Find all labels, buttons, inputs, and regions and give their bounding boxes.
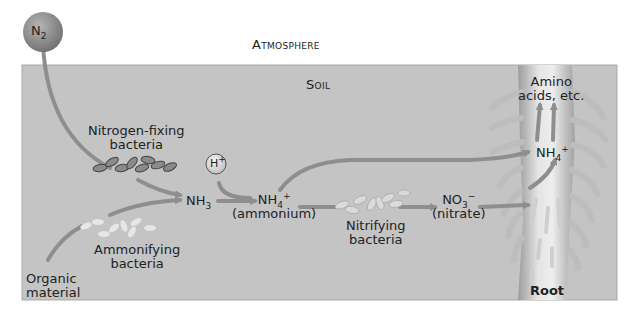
organic-line1: Organic (26, 272, 80, 286)
ammonifying-line1: Ammonifying (94, 243, 180, 257)
ammonifying-bacteria-label: Ammonifying bacteria (94, 243, 180, 271)
amino-arrow-2 (553, 105, 554, 140)
nitrifying-bacteria-label: Nitrifying bacteria (346, 219, 406, 247)
nh4-base: NH (258, 192, 278, 207)
root-nh4-base: NH (536, 145, 556, 160)
nh4-sup: + (283, 191, 291, 201)
ammonium-label: NH4+ (ammonium) (232, 193, 316, 221)
h-ion-label: H+ (210, 157, 226, 171)
n2-base: N (31, 23, 41, 38)
h-sup: + (218, 154, 226, 164)
n2-sub: 2 (41, 31, 47, 41)
ammonifying-line2: bacteria (94, 257, 180, 271)
nitrifying-line2: bacteria (346, 233, 406, 247)
nitrate-label: NO3− (nitrate) (432, 193, 486, 221)
nitrogen-fixing-line1: Nitrogen-fixing (88, 124, 185, 138)
amino-line1: Amino (518, 75, 584, 89)
no3-base: NO (442, 192, 462, 207)
organic-material-label: Organic material (26, 272, 80, 300)
nh3-label: NH3 (186, 194, 211, 208)
ammonium-caption: (ammonium) (232, 207, 316, 221)
organic-line2: material (26, 286, 80, 300)
nitrate-caption: (nitrate) (432, 207, 486, 221)
no3-sup: − (468, 191, 476, 201)
root-nh4-sup: + (561, 144, 569, 154)
soil-label: Soil (306, 78, 330, 92)
root-nh4-sub: 4 (556, 153, 562, 163)
nitrogen-cycle-diagram: N2 Atmosphere Soil Nitrogen-fixing bacte… (0, 0, 627, 323)
nitrogen-fixing-bacteria-label: Nitrogen-fixing bacteria (88, 124, 185, 152)
nitrogen-fixing-line2: bacteria (88, 138, 185, 152)
root-nh4-label: NH4+ (536, 146, 569, 160)
amino-acids-label: Amino acids, etc. (518, 75, 584, 103)
no3-to-root-arrow (480, 205, 528, 207)
root-label: Root (530, 284, 564, 298)
nh3-sub: 3 (206, 201, 212, 211)
amino-line2: acids, etc. (518, 89, 584, 103)
atmosphere-label: Atmosphere (252, 38, 320, 52)
nitrifying-line1: Nitrifying (346, 219, 406, 233)
n2-label: N2 (31, 24, 46, 38)
nh3-base: NH (186, 193, 206, 208)
